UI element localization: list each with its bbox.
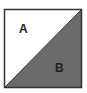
- region-label-b: B: [55, 61, 64, 75]
- region-label-a: A: [19, 22, 28, 36]
- split-square-diagram: A B: [0, 0, 87, 93]
